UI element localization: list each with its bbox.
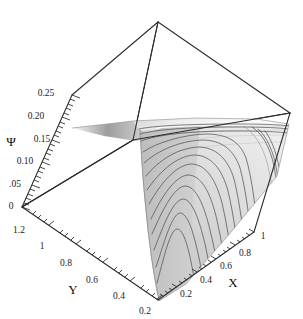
z-tick-label-3: 0.10 — [17, 156, 34, 166]
x-tick-label-0: 0.2 — [180, 289, 192, 299]
y-tick-label-0: 1.2 — [13, 225, 25, 235]
x-tick-label-3: 0.8 — [239, 248, 251, 258]
y-tick-label-5: 0.2 — [139, 306, 151, 316]
y-axis-title: Y — [68, 282, 78, 297]
z-axis: 0.25 0.20 0.15 0.10 .05 0 Ψ — [6, 88, 80, 211]
x-tick-label-4: 1 — [261, 231, 266, 241]
surface-mesh — [72, 118, 290, 302]
z-tick-label-1: 0.20 — [28, 111, 45, 121]
z-tick-label-4: .05 — [9, 179, 21, 189]
z-tick-label-5: 0 — [9, 201, 14, 211]
x-tick-label-2: 0.6 — [220, 261, 232, 271]
z-axis-title: Ψ — [6, 134, 16, 149]
y-tick-label-1: 1 — [40, 241, 45, 251]
z-tick-label-2: 0.15 — [34, 134, 51, 144]
y-tick-label-4: 0.4 — [113, 291, 125, 301]
x-tick-label-1: 0.4 — [200, 275, 212, 285]
surface-plot-figure: 0.25 0.20 0.15 0.10 .05 0 Ψ — [0, 0, 303, 319]
y-tick-label-3: 0.6 — [86, 275, 98, 285]
y-tick-label-2: 0.8 — [60, 258, 72, 268]
y-axis: 1.2 1 0.8 0.6 0.4 0.2 Y — [13, 203, 162, 316]
z-tick-label-0: 0.25 — [38, 88, 55, 98]
plot-canvas: 0.25 0.20 0.15 0.10 .05 0 Ψ — [0, 0, 303, 319]
x-axis-title: X — [228, 275, 238, 290]
